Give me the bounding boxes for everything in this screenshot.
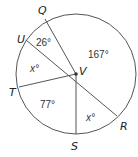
label-U: U — [17, 33, 25, 46]
segment-VT — [19, 74, 76, 87]
angle-QVR: 167° — [88, 49, 109, 60]
label-T: T — [9, 86, 17, 99]
label-R: R — [120, 120, 128, 133]
label-Q: Q — [38, 4, 47, 17]
label-S: S — [71, 140, 78, 153]
angle-SVR: x° — [85, 112, 95, 123]
angle-UVT: x° — [29, 63, 39, 74]
center-point — [74, 72, 78, 76]
circle-diagram: Q U T S R V 26° 167° x° 77° x° — [0, 0, 138, 157]
angle-QVU: 26° — [36, 37, 51, 48]
angle-TVS: 77° — [40, 99, 55, 110]
label-V: V — [79, 65, 88, 78]
